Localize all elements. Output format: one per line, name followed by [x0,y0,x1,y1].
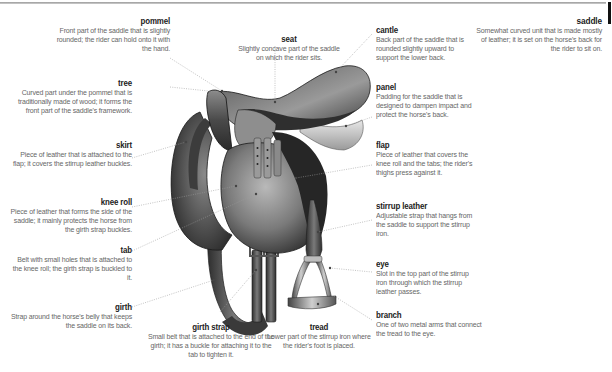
term-pommel: pommel [49,16,170,26]
label-skirt: skirt Piece of leather that is attached … [11,140,132,168]
label-flap: flap Piece of leather that covers the kn… [376,140,477,178]
term-flap: flap [376,140,477,150]
label-girth-strap: girth strap Small belt that is attached … [148,322,275,360]
desc-flap: Piece of leather that covers the knee ro… [376,150,477,178]
label-stirrup-leather: stirrup leather Adjustable strap that ha… [376,201,477,239]
label-knee-roll: knee roll Piece of leather that forms th… [11,197,132,235]
term-girth: girth [11,302,132,312]
term-panel: panel [376,82,477,92]
term-tree: tree [11,78,132,88]
label-saddle: saddle Somewhat curved unit that is made… [473,16,602,54]
stirrup-iron-shape [288,256,336,309]
label-branch: branch One of two metal arms that connec… [376,310,485,338]
label-tab: tab Belt with small holes that is attach… [11,245,132,283]
desc-branch: One of two metal arms that connect the t… [376,320,485,338]
label-tread: tread Lower part of the stirrup iron whe… [267,322,372,350]
desc-girth: Strap around the horse's belly that keep… [11,312,132,330]
term-girth-strap: girth strap [148,322,275,332]
desc-cantle: Back part of the saddle that is rounded … [376,35,477,63]
desc-tab: Belt with small holes that is attached t… [11,255,132,283]
label-pommel: pommel Front part of the saddle that is … [49,16,170,54]
desc-girth-strap: Small belt that is attached to the end o… [148,332,275,360]
term-tab: tab [11,245,132,255]
desc-panel: Padding for the saddle that is designed … [376,92,477,120]
desc-saddle: Somewhat curved unit that is made mostly… [473,26,602,54]
term-tread: tread [267,322,372,332]
desc-stirrup-leather: Adjustable strap that hangs from the sad… [376,211,477,239]
desc-seat: Slightly concave part of the saddle on w… [235,44,344,62]
term-eye: eye [376,259,477,269]
girth-strap-shape [250,246,278,322]
term-saddle: saddle [473,16,602,26]
desc-knee-roll: Piece of leather that forms the side of … [11,207,132,235]
desc-tread: Lower part of the stirrup iron where the… [267,332,372,350]
desc-tree: Curved part under the pommel that is tra… [11,88,132,116]
desc-eye: Slot in the top part of the stirrup iron… [376,269,477,297]
term-cantle: cantle [376,25,477,35]
desc-pommel: Front part of the saddle that is slightl… [49,26,170,54]
term-seat: seat [235,34,344,44]
term-knee-roll: knee roll [11,197,132,207]
label-seat: seat Slightly concave part of the saddle… [235,34,344,62]
desc-skirt: Piece of leather that is attached to the… [11,150,132,168]
label-girth: girth Strap around the horse's belly tha… [11,302,132,330]
term-stirrup-leather: stirrup leather [376,201,477,211]
term-branch: branch [376,310,485,320]
label-eye: eye Slot in the top part of the stirrup … [376,259,477,297]
label-panel: panel Padding for the saddle that is des… [376,82,477,120]
label-tree: tree Curved part under the pommel that i… [11,78,132,116]
tab-shape [254,138,281,178]
label-cantle: cantle Back part of the saddle that is r… [376,25,477,63]
term-skirt: skirt [11,140,132,150]
